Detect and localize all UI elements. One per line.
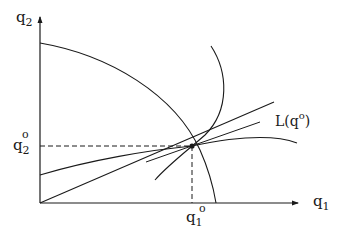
isoquant-curve-lower bbox=[40, 137, 297, 175]
q1o-superscript: o bbox=[199, 202, 206, 215]
production-frontier-curve bbox=[40, 43, 216, 203]
isoquant-curve-upper bbox=[155, 46, 224, 180]
production-diagram: q2 q1 q2 o q1 o L(qo) bbox=[0, 0, 341, 237]
y-axis-label: q2 bbox=[16, 8, 33, 29]
ray-label: L(qo) bbox=[275, 110, 310, 129]
ray-line bbox=[40, 102, 274, 203]
x-axis-label: q1 bbox=[313, 192, 330, 213]
q2o-superscript: o bbox=[22, 128, 29, 141]
